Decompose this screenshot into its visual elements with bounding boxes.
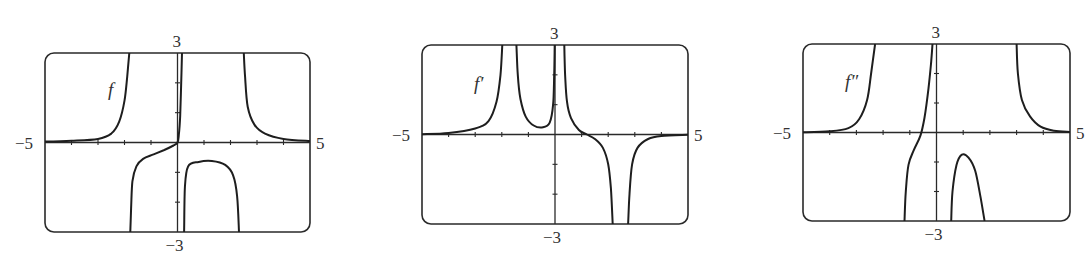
- x-min-label: −5: [773, 125, 791, 142]
- curve-branch: [951, 154, 984, 221]
- function-label: f″: [845, 72, 858, 91]
- x-max-label: 5: [1076, 125, 1085, 142]
- curve-branch: [1017, 44, 1070, 132]
- curve-branch: [803, 44, 875, 132]
- y-max-label: 3: [932, 24, 941, 41]
- y-min-label: −3: [925, 226, 943, 243]
- plot-svg: [0, 0, 1086, 264]
